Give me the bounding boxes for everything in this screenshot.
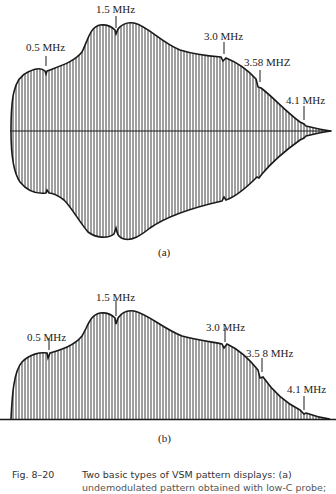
caption-line-2: undemodulated pattern obtained with low-… — [12, 481, 334, 494]
panel-a-marker-4-1mhz: 4.1 MHz — [286, 95, 325, 106]
panel-b-marker-3-0mhz: 3.0 MHz — [206, 322, 245, 333]
panel-a-marker-3-58mhz: 3.58 MHZ — [244, 57, 290, 68]
panel-a-marker-0-5mhz: 0.5 MHz — [26, 42, 65, 53]
figure-caption: Fig. 8–20Two basic types of VSM pattern … — [12, 468, 334, 494]
panel-b-marker-1-5mhz: 1.5 MHz — [96, 292, 135, 303]
panel-b-marker-0-5mhz: 0.5 MHz — [27, 332, 66, 343]
panel-a-envelope — [0, 0, 336, 260]
panel-a-marker-1-5mhz: 1.5 MHz — [96, 4, 135, 15]
panel-b-marker-4-1mhz: 4.1 MHz — [287, 384, 326, 395]
panel-b-marker-3-58mhz: 3.5 8 MHz — [246, 348, 293, 359]
caption-line-1: Two basic types of VSM pattern displays:… — [82, 469, 292, 480]
panel-a-marker-3-0mhz: 3.0 MHz — [204, 31, 243, 42]
panel-b-label: (b) — [158, 433, 171, 444]
figure-number: Fig. 8–20 — [12, 468, 82, 481]
panel-a-label: (a) — [158, 247, 170, 258]
panel-b-envelope — [0, 300, 336, 425]
